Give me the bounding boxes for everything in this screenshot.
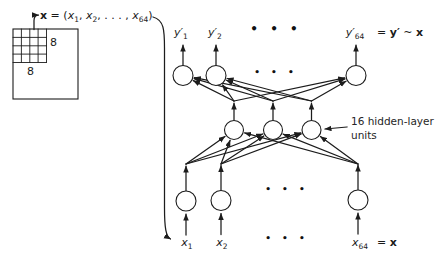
patch-height-label: 8 [50, 36, 57, 49]
input-unit-circle [176, 191, 196, 211]
input-unit-circle [211, 191, 231, 211]
ellipsis-input-labels: • • • [265, 233, 309, 243]
ellipsis-output-units: • • • [254, 67, 298, 77]
hidden-units-annotation: 16 hidden-layer units [351, 115, 434, 142]
vector-equation-label: x = (x1, x2, . . . , x64) [40, 9, 153, 26]
output-label-y64: y′64 [346, 26, 365, 43]
image-patch-square [13, 29, 78, 99]
output-equation-label: = y′ ~ x [377, 26, 423, 39]
patch-to-vector-arrow [34, 15, 39, 30]
ellipsis-output-labels: • • • [250, 22, 301, 36]
patch-width-label: 8 [27, 65, 34, 78]
ellipsis-input-units: • • • [265, 184, 309, 194]
output-unit-circle [206, 66, 226, 86]
input-equation-label: = x [377, 236, 397, 249]
output-feed-arrows [183, 45, 356, 65]
output-label-y2: y′2 [208, 26, 222, 43]
hidden-unit-circle [264, 121, 283, 140]
hidden-unit-circle [225, 121, 244, 140]
output-label-y1: y′1 [174, 26, 188, 43]
patch-grid-lines [13, 29, 47, 63]
input-label-x64: x64 [352, 236, 368, 253]
input-label-x1: x1 [181, 236, 192, 253]
hidden-annotation-arrow [325, 127, 347, 129]
hidden-unit-circle [302, 121, 321, 140]
figure-canvas: x = (x1, x2, . . . , x64) 8 8 y′1 y′2 y′… [0, 0, 436, 261]
input-to-hidden-connections [186, 133, 358, 191]
input-unit-circle [348, 190, 368, 210]
input-feed-arrows [186, 213, 358, 235]
output-unit-circle [173, 66, 193, 86]
vector-to-input-arrow [153, 17, 171, 239]
output-unit-circle [346, 66, 366, 86]
input-label-x2: x2 [216, 236, 227, 253]
